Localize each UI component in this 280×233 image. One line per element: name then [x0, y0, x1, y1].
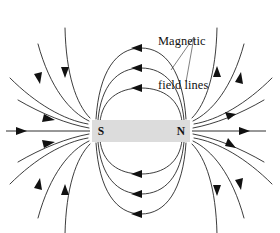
arrowhead-axis-right-lower	[225, 138, 236, 148]
arrowhead-top-inner	[131, 84, 142, 92]
arrowhead-top-middle	[131, 64, 142, 72]
arrowhead-group-upper-left	[34, 67, 69, 84]
south-pole-label: S	[98, 125, 104, 137]
arrowhead-top-outer	[131, 44, 142, 52]
arrowhead-group-top-loops	[131, 44, 142, 92]
arrowhead-bottom-inner	[131, 170, 142, 178]
arrowhead-upper-left-2	[34, 72, 42, 84]
arrowhead-bottom-outer	[131, 210, 142, 218]
arrowhead-upper-left-1	[61, 67, 69, 78]
arrowhead-axis-right-center	[239, 127, 250, 135]
field-lines-caption: Magnetic field lines	[158, 5, 262, 121]
field-line-bottom-middle	[98, 142, 184, 194]
arrowhead-bottom-middle	[131, 190, 142, 198]
field-line-upper-left-2	[38, 44, 89, 121]
arrowhead-group-lower-right	[213, 178, 243, 196]
caption-line-1: Magnetic	[158, 34, 262, 49]
arrowhead-lower-left-2	[34, 178, 42, 190]
bar-magnet: S N	[92, 120, 190, 142]
field-line-bottom-inner	[100, 140, 182, 174]
arrowhead-lower-right-1	[213, 185, 221, 196]
field-line-lower-left-2	[38, 141, 89, 218]
caption-line-2: field lines	[158, 78, 262, 93]
field-line-group-lower-outer	[10, 138, 272, 233]
magnet-body-rect	[92, 120, 190, 142]
field-line-lower-left-1	[65, 144, 90, 233]
magnetic-field-figure: S N Magnetic field lines	[0, 0, 280, 233]
arrowhead-group-lower-left	[34, 178, 69, 195]
field-line-upper-left-1	[65, 28, 90, 118]
arrowhead-lower-right-2	[235, 178, 243, 190]
field-line-lower-right-2	[193, 141, 244, 218]
arrowhead-lower-left-1	[61, 184, 69, 195]
field-line-lower-right-1	[192, 144, 217, 233]
arrowhead-group-bottom-loops	[131, 170, 142, 218]
north-pole-label: N	[177, 125, 186, 137]
arrowhead-axis-left-center	[16, 127, 27, 135]
